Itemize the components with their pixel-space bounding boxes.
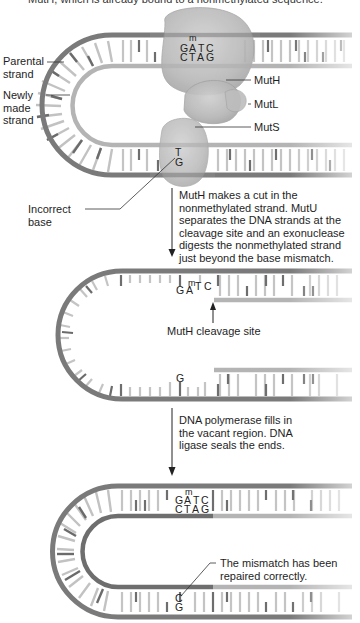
leader-line-repaired bbox=[181, 563, 216, 596]
mismatch-repair-diagram: m G A T C C T A G T G bbox=[0, 0, 360, 623]
mismatch-base-g: G bbox=[175, 156, 183, 168]
base-g: G bbox=[176, 284, 184, 296]
label-parental-strand: Parental strand bbox=[3, 55, 44, 80]
label-muts: MutS bbox=[254, 121, 280, 134]
step-2-caption: DNA polymerase fills in the vacant regio… bbox=[179, 414, 293, 452]
ctag-bottom-sequence: C T A G bbox=[180, 51, 214, 63]
arrow-up-icon bbox=[210, 302, 216, 310]
base-a: A bbox=[192, 503, 199, 515]
base-t: T bbox=[184, 503, 191, 515]
base-a: A bbox=[186, 284, 193, 296]
arrow-down-icon bbox=[169, 249, 176, 257]
mutl-side-blob bbox=[225, 90, 246, 112]
label-mismatch-repaired: The mismatch has been repaired correctly… bbox=[220, 557, 337, 582]
base-c: C bbox=[175, 503, 183, 515]
base-t: T bbox=[189, 51, 196, 63]
base-g: G bbox=[206, 51, 214, 63]
repaired-strand-segment bbox=[83, 516, 214, 587]
label-mutl: MutL bbox=[254, 98, 278, 111]
base-t: T bbox=[195, 280, 202, 292]
step-1-caption: MutH makes a cut in the nonmethylated st… bbox=[179, 189, 345, 265]
base-g: G bbox=[201, 503, 209, 515]
base-c: C bbox=[180, 51, 188, 63]
label-muth-cleavage-site: MutH cleavage site bbox=[167, 325, 261, 338]
panel-3-hairpin: m G A T C C T A G C G bbox=[52, 480, 360, 623]
remaining-base-g: G bbox=[176, 372, 184, 384]
label-incorrect-base: Incorrect base bbox=[28, 203, 71, 228]
arrow-down-icon bbox=[169, 467, 176, 476]
label-newly-made-strand: Newly made strand bbox=[3, 89, 34, 127]
base-c: C bbox=[204, 280, 212, 292]
label-muth: MutH bbox=[254, 74, 280, 87]
repaired-base-g: G bbox=[175, 601, 183, 613]
base-a: A bbox=[197, 51, 204, 63]
